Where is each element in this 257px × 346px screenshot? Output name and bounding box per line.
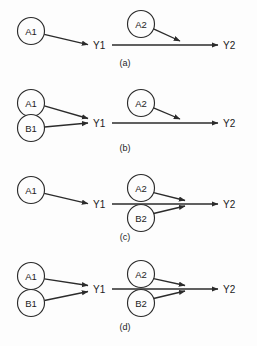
panel-b: A1 B1 Y1 A2 Y2 (b): [18, 90, 236, 154]
edge-a2-to-path-panel-b: [154, 108, 181, 119]
node-a1-panel-a: A1: [18, 18, 45, 45]
node-label-a2: A2: [135, 98, 147, 109]
edge-a1-to-y1-panel-b: [44, 106, 88, 119]
node-label-a1: A1: [25, 271, 37, 282]
edge-b2-to-path-panel-c: [154, 206, 185, 214]
figure-canvas: A1 Y1 A2 Y2 (a) A1: [0, 0, 257, 346]
panel-caption-c: (c): [120, 232, 131, 242]
edge-b2-to-path-panel-d: [154, 291, 185, 299]
edge-b1-to-y1-panel-d: [44, 292, 88, 301]
edge-a1-to-y1-panel-d: [44, 279, 88, 286]
edge-b1-to-y1-panel-b: [45, 123, 89, 127]
node-label-b2: B2: [135, 298, 147, 309]
node-label-y1-panel-b: Y1: [93, 118, 106, 129]
panel-caption-b: (b): [120, 143, 131, 153]
node-label-a1: A1: [25, 98, 37, 109]
node-label-y1-panel-c: Y1: [93, 199, 106, 210]
panel-caption-d: (d): [120, 322, 131, 332]
node-a2-panel-a: A2: [128, 11, 155, 38]
node-a1-panel-d: A1: [18, 263, 45, 290]
node-a2-panel-d: A2: [128, 261, 155, 288]
node-a1-panel-b: A1: [18, 90, 45, 117]
edge-a2-to-path-panel-c: [154, 193, 185, 201]
node-label-a1: A1: [25, 185, 37, 196]
panel-caption-a: (a): [120, 58, 131, 68]
node-label-b2: B2: [135, 213, 147, 224]
node-label-a1: A1: [25, 26, 37, 37]
node-b1-panel-b: B1: [18, 115, 45, 142]
node-label-a2: A2: [135, 183, 147, 194]
node-label-b1: B1: [25, 298, 37, 309]
node-a2-panel-c: A2: [128, 175, 155, 202]
node-a2-panel-b: A2: [128, 90, 155, 117]
edge-a1-to-y1-panel-a: [44, 34, 88, 44]
panel-d: A1 B1 Y1 A2 B2: [18, 261, 236, 333]
node-label-a2: A2: [135, 19, 147, 30]
edge-a1-to-y1-panel-c: [44, 193, 88, 203]
node-label-y1-panel-d: Y1: [93, 284, 106, 295]
node-b2-panel-d: B2: [128, 290, 155, 317]
node-label-y2-panel-c: Y2: [223, 199, 236, 210]
node-a1-panel-c: A1: [18, 177, 45, 204]
edge-a2-to-path-panel-d: [154, 279, 185, 286]
node-b2-panel-c: B2: [128, 205, 155, 232]
node-label-y2-panel-a: Y2: [223, 40, 236, 51]
path-diagram-figure: A1 Y1 A2 Y2 (a) A1: [0, 0, 257, 346]
panel-a: A1 Y1 A2 Y2 (a): [18, 11, 236, 69]
node-label-y2-panel-b: Y2: [223, 118, 236, 129]
node-label-y1-panel-a: Y1: [93, 40, 106, 51]
panel-c: A1 Y1 A2 B2 Y2 (c): [18, 175, 236, 243]
edge-a2-to-path-panel-a: [154, 29, 181, 41]
node-label-y2-panel-d: Y2: [223, 284, 236, 295]
node-label-b1: B1: [25, 123, 37, 134]
node-b1-panel-d: B1: [18, 290, 45, 317]
node-label-a2: A2: [135, 269, 147, 280]
